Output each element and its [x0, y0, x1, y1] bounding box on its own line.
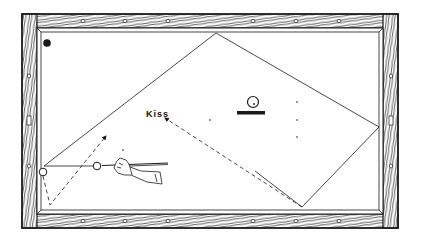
spot-ball	[248, 97, 259, 108]
kiss-label: Kiss	[146, 109, 169, 119]
cue-ball	[93, 162, 101, 170]
playing-surface	[41, 32, 379, 210]
billiards-diagram: Kiss	[0, 0, 421, 240]
spot-ball-base	[237, 111, 265, 115]
table-frame	[22, 14, 398, 228]
pocketed-ball	[43, 39, 51, 47]
object-ball	[39, 168, 47, 176]
rail-bottom	[22, 214, 398, 228]
rail-top	[22, 14, 398, 28]
